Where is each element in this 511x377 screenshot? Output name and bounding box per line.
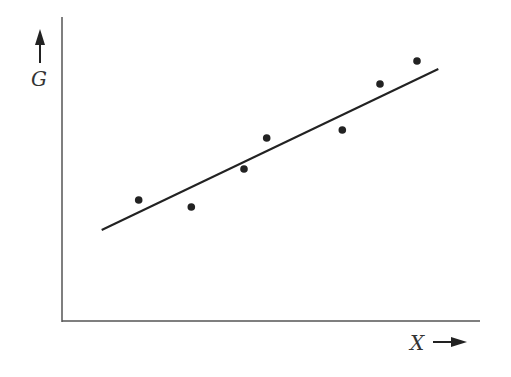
data-point: [339, 126, 347, 134]
scatter-plot: G X: [0, 0, 511, 377]
right-arrow-icon: [433, 337, 467, 347]
data-point: [188, 203, 196, 211]
data-point: [135, 196, 143, 204]
data-point: [413, 57, 421, 65]
data-point: [376, 80, 384, 88]
x-axis-label: X: [408, 331, 425, 355]
data-point: [263, 134, 271, 142]
up-arrow-icon: [35, 29, 45, 63]
y-axis-label: G: [31, 67, 47, 91]
data-points: [135, 57, 421, 211]
trend-line: [102, 69, 439, 230]
data-point: [240, 165, 248, 173]
